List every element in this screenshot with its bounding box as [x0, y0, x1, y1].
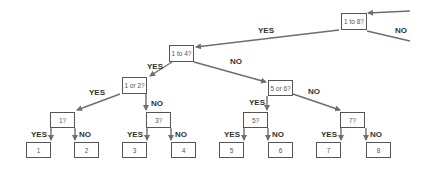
label-q1or2-no: NO: [151, 99, 163, 108]
leaf-8: 8: [366, 142, 391, 158]
q5or6-no-edge: [293, 94, 340, 110]
label-q5-yes: YES: [224, 130, 240, 139]
label-q3-no: NO: [175, 130, 187, 139]
label-q1-yes: YES: [31, 130, 47, 139]
label-q7-yes: YES: [321, 130, 337, 139]
leaf-5: 5: [219, 142, 244, 158]
node-3: 3?: [146, 112, 171, 128]
leaf-1: 1: [26, 142, 51, 158]
leaf-3: 3: [122, 142, 147, 158]
node-5-or-6: 5 or 6?: [268, 80, 293, 96]
incoming-arrow: [368, 11, 410, 13]
label-q1-no: NO: [79, 130, 91, 139]
node-1-or-2: 1 or 2?: [122, 77, 147, 94]
node-1: 1?: [50, 112, 75, 128]
label-q3-yes: YES: [127, 130, 143, 139]
label-root-no: NO: [395, 26, 407, 35]
label-q7-no: NO: [370, 130, 382, 139]
node-root: 1 to 8?: [341, 13, 367, 30]
label-q5or6-yes: YES: [249, 98, 265, 107]
label-q5-no: NO: [272, 130, 284, 139]
node-5: 5?: [243, 112, 268, 128]
label-q1to4-yes: YES: [147, 62, 163, 71]
leaf-2: 2: [74, 142, 99, 158]
node-1-to-4: 1 to 4?: [169, 45, 194, 62]
label-q1or2-yes: YES: [89, 88, 105, 97]
label-root-yes: YES: [258, 26, 274, 35]
leaf-7: 7: [316, 142, 341, 158]
label-q1to4-no: NO: [230, 57, 242, 66]
leaf-4: 4: [171, 142, 196, 158]
node-7: 7?: [340, 112, 365, 128]
leaf-6: 6: [268, 142, 293, 158]
label-q5or6-no: NO: [308, 87, 320, 96]
